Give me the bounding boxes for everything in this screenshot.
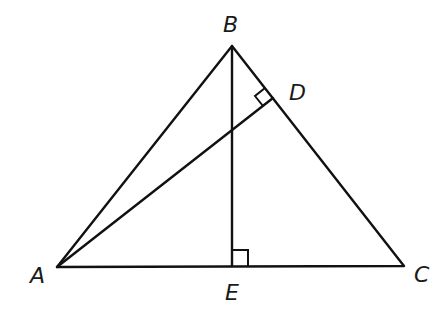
label-d: D <box>289 80 306 105</box>
triangle-diagram: B D A C E <box>0 0 446 311</box>
altitude-ad <box>57 98 273 267</box>
label-b: B <box>223 12 238 37</box>
diagram-svg: B D A C E <box>0 0 446 311</box>
triangle-abc <box>57 46 404 267</box>
right-angle-mark-e <box>232 250 248 266</box>
label-e: E <box>225 280 239 305</box>
right-angle-mark-d <box>255 88 265 106</box>
label-a: A <box>28 263 45 288</box>
label-c: C <box>414 262 430 287</box>
